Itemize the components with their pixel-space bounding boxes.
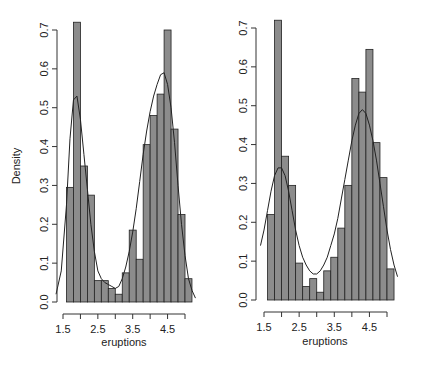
y-tick-label: 0.3 xyxy=(237,176,249,191)
histogram-bar xyxy=(66,187,73,302)
histogram-bar xyxy=(136,259,143,302)
histogram-bars xyxy=(66,22,191,302)
histogram-bar xyxy=(87,195,94,302)
x-tick-label: 1.5 xyxy=(256,321,271,333)
y-tick-label: 0.0 xyxy=(38,294,50,309)
y-tick-label: 0.2 xyxy=(237,215,249,230)
histogram-bar xyxy=(185,279,192,302)
y-tick-label: 0.1 xyxy=(38,255,50,270)
histogram-bar xyxy=(380,178,387,300)
histogram-bar xyxy=(387,269,394,300)
x-tick-label: 4.5 xyxy=(362,321,377,333)
y-tick-label: 0.7 xyxy=(38,22,50,37)
x-tick-label: 1.5 xyxy=(55,323,70,335)
histogram-bar xyxy=(143,145,150,302)
right-histogram-panel: 0.00.10.20.30.40.50.60.71.52.53.54.5erup… xyxy=(237,20,398,347)
x-axis: 1.52.53.54.5 xyxy=(256,312,387,333)
y-tick-label: 0.4 xyxy=(237,137,249,152)
histogram-bar xyxy=(80,166,87,302)
y-tick-label: 0.0 xyxy=(237,292,249,307)
y-tick-label: 0.4 xyxy=(38,139,50,154)
left-histogram-panel: 0.00.10.20.30.40.50.60.71.52.53.54.5erup… xyxy=(10,22,195,348)
histogram-bar xyxy=(108,288,115,302)
x-tick-label: 3.5 xyxy=(125,323,140,335)
histogram-figure: 0.00.10.20.30.40.50.60.71.52.53.54.5erup… xyxy=(0,0,423,368)
histogram-bar xyxy=(122,273,129,302)
histogram-bar xyxy=(310,279,317,300)
x-axis-title: eruptions xyxy=(302,335,348,347)
histogram-bar xyxy=(296,263,303,300)
y-axis: 0.00.10.20.30.40.50.60.7 xyxy=(237,20,256,307)
histogram-bar xyxy=(289,185,296,300)
y-axis: 0.00.10.20.30.40.50.60.7 xyxy=(38,22,57,309)
y-tick-label: 0.6 xyxy=(38,61,50,76)
histogram-bar xyxy=(73,22,80,302)
histogram-bar xyxy=(94,281,101,302)
histogram-bars xyxy=(268,20,395,300)
histogram-bar xyxy=(345,185,352,300)
histogram-bar xyxy=(359,92,366,300)
histogram-bar xyxy=(324,271,331,300)
x-tick-label: 2.5 xyxy=(291,321,306,333)
histogram-bar xyxy=(268,215,275,300)
y-tick-label: 0.3 xyxy=(38,178,50,193)
x-axis: 1.52.53.54.5 xyxy=(55,314,185,335)
histogram-bar xyxy=(373,143,380,300)
x-tick-label: 2.5 xyxy=(90,323,105,335)
x-tick-label: 3.5 xyxy=(327,321,342,333)
histogram-bar xyxy=(303,286,310,300)
histogram-bar xyxy=(352,79,359,300)
histogram-bar xyxy=(275,20,282,300)
histogram-bar xyxy=(331,257,338,300)
y-tick-label: 0.6 xyxy=(237,59,249,74)
histogram-bar xyxy=(150,115,157,302)
histogram-bar xyxy=(157,94,164,302)
y-tick-label: 0.2 xyxy=(38,217,50,232)
x-axis-title: eruptions xyxy=(101,336,147,348)
histogram-bar xyxy=(317,292,324,300)
y-tick-label: 0.5 xyxy=(237,98,249,113)
y-axis-title: Density xyxy=(10,147,22,184)
x-tick-label: 4.5 xyxy=(160,323,175,335)
y-tick-label: 0.7 xyxy=(237,20,249,35)
histogram-bar xyxy=(366,49,373,300)
histogram-bar xyxy=(164,30,171,302)
y-tick-label: 0.1 xyxy=(237,253,249,268)
histogram-bar xyxy=(338,228,345,300)
histogram-bar xyxy=(129,230,136,302)
y-tick-label: 0.5 xyxy=(38,100,50,115)
histogram-bar xyxy=(171,129,178,302)
histogram-bar xyxy=(115,294,122,302)
